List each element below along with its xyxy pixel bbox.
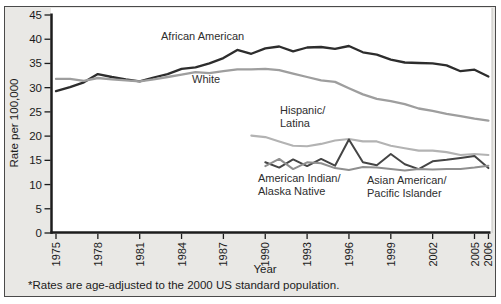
x-axis-title: Year xyxy=(253,263,276,275)
chart-canvas: 0510152025303540451975197819811984198719… xyxy=(0,0,501,304)
x-tick-label: 2006 xyxy=(482,242,494,266)
y-tick-label: 30 xyxy=(29,82,42,94)
y-tick-label: 0 xyxy=(36,227,42,239)
x-tick-label: 2005 xyxy=(469,242,481,266)
x-tick-label: 1987 xyxy=(217,242,229,266)
series-label-line: American Indian/ xyxy=(258,172,341,185)
y-tick-label: 20 xyxy=(29,130,42,142)
series-label-line: Alaska Native xyxy=(258,185,341,198)
series-label-line: Asian American/ xyxy=(367,174,446,187)
series-label-line: White xyxy=(192,73,220,86)
footnote: *Rates are age-adjusted to the 2000 US s… xyxy=(28,279,339,291)
series-label-line: Pacific Islander xyxy=(367,187,446,200)
figure: 0510152025303540451975197819811984198719… xyxy=(0,0,501,304)
y-tick-label: 25 xyxy=(29,106,42,118)
x-tick-label: 1984 xyxy=(176,242,188,266)
x-tick-label: 1996 xyxy=(343,242,355,266)
series-label-line: Latina xyxy=(280,117,325,130)
x-tick-label: 1981 xyxy=(134,242,146,266)
x-tick-label: 1978 xyxy=(92,242,104,266)
x-tick-label: 2002 xyxy=(427,242,439,266)
y-tick-label: 35 xyxy=(29,57,42,69)
y-axis-title: Rate per 100,000 xyxy=(8,79,20,168)
x-tick-label: 1993 xyxy=(301,242,313,266)
x-tick-label: 1975 xyxy=(50,242,62,266)
series-label-asian-american-pacific-islander: Asian American/ Pacific Islander xyxy=(367,174,446,200)
series-label-white: White xyxy=(192,73,220,86)
y-tick-label: 40 xyxy=(29,33,42,45)
series-label-line: Hispanic/ xyxy=(280,104,325,117)
series-label-line: African American xyxy=(161,30,244,43)
series-label-american-indian-alaska-native: American Indian/ Alaska Native xyxy=(258,172,341,198)
y-tick-label: 45 xyxy=(29,9,42,21)
y-tick-label: 10 xyxy=(29,179,42,191)
series-label-african-american: African American xyxy=(161,30,244,43)
series-label-hispanic-latina: Hispanic/ Latina xyxy=(280,104,325,130)
y-tick-label: 5 xyxy=(36,203,42,215)
y-tick-label: 15 xyxy=(29,154,42,166)
x-tick-label: 1999 xyxy=(385,242,397,266)
